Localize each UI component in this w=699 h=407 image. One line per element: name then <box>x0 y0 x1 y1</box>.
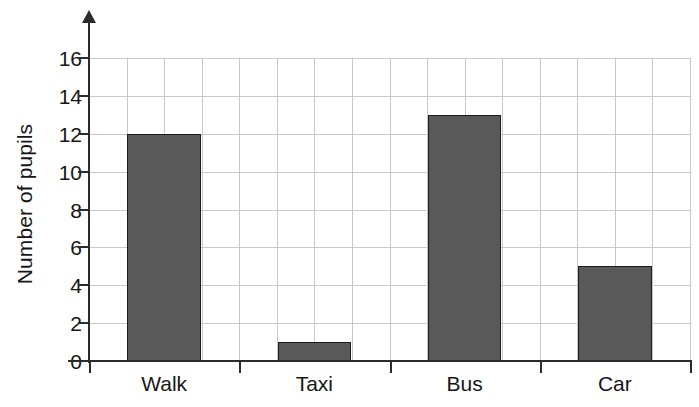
x-axis-category-label: Car <box>598 372 632 395</box>
x-axis-tick-mark <box>540 361 542 373</box>
gridline-vertical <box>352 58 353 361</box>
x-axis-tick-mark <box>690 361 692 373</box>
y-axis-title: Number of pupils <box>0 0 50 407</box>
gridline-vertical <box>502 58 503 361</box>
y-axis-tick-mark <box>78 360 89 362</box>
y-axis-line <box>88 18 90 363</box>
y-axis-tick-labels: 0246810121416 <box>44 0 82 407</box>
bar-taxi <box>278 342 352 361</box>
x-axis-category-label: Taxi <box>296 372 333 395</box>
gridline-vertical <box>540 58 541 361</box>
x-axis-category-label: Bus <box>447 372 483 395</box>
y-axis-tick-mark <box>78 171 89 173</box>
bar-bus <box>428 115 502 361</box>
bar-walk <box>127 134 201 361</box>
gridline-vertical <box>652 58 653 361</box>
y-axis-tick-mark <box>78 284 89 286</box>
gridline-vertical <box>239 58 240 361</box>
bar-chart: Number of pupils 0246810121416 WalkTaxiB… <box>0 0 699 407</box>
x-axis-tick-mark <box>89 361 91 373</box>
y-axis-tick-mark <box>78 322 89 324</box>
y-axis-title-text: Number of pupils <box>13 123 37 283</box>
y-axis-tick-mark <box>78 209 89 211</box>
gridline-vertical <box>277 58 278 361</box>
gridline-vertical <box>202 58 203 361</box>
x-axis-tick-mark <box>239 361 241 373</box>
y-axis-arrow-icon <box>82 10 96 23</box>
gridline-vertical <box>690 58 691 361</box>
x-axis-category-label: Walk <box>141 372 187 395</box>
gridline-vertical <box>390 58 391 361</box>
y-axis-tick-mark <box>78 95 89 97</box>
plot-area <box>89 58 690 361</box>
gridline-vertical <box>314 58 315 361</box>
x-axis-tick-mark <box>390 361 392 373</box>
x-axis-line <box>68 360 692 362</box>
bar-car <box>578 266 652 361</box>
y-axis-tick-mark <box>78 246 89 248</box>
y-axis-tick-mark <box>78 133 89 135</box>
y-axis-tick-mark <box>78 57 89 59</box>
